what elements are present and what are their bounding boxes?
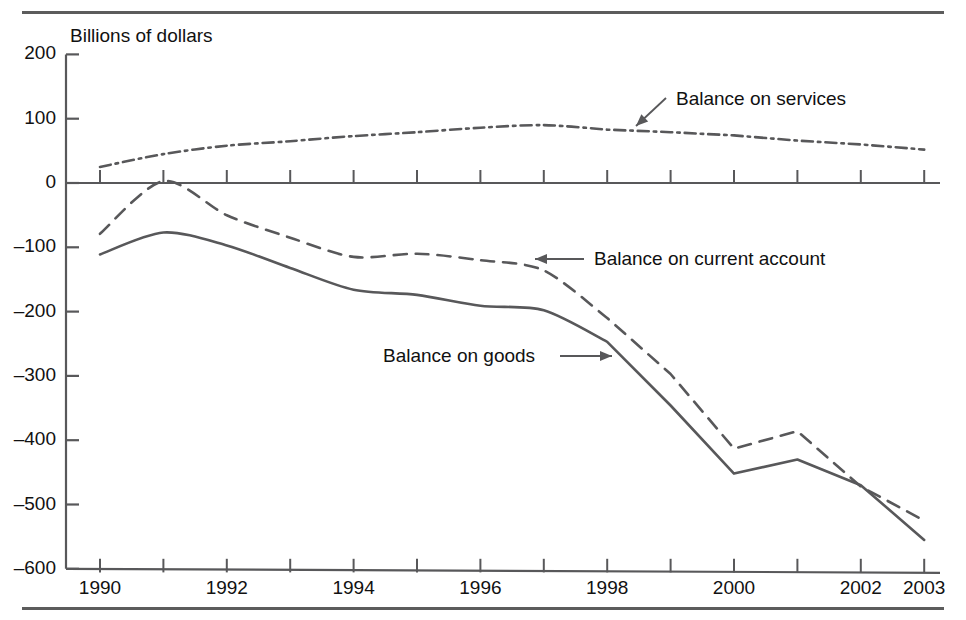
- y-tick-label: 0: [0, 171, 56, 193]
- y-tick-label: –300: [0, 364, 56, 386]
- y-tick-label: –400: [0, 428, 56, 450]
- series-line: [100, 232, 924, 540]
- y-tick-label: –100: [0, 235, 56, 257]
- x-tick-label: 2003: [884, 577, 964, 599]
- series-annotation-label: Balance on goods: [383, 345, 535, 367]
- series-annotation-label: Balance on services: [676, 88, 846, 110]
- y-tick-label: 100: [0, 107, 56, 129]
- x-tick-label: 1992: [187, 577, 267, 599]
- x-tick-label: 1990: [60, 577, 140, 599]
- chart-annotations: [535, 98, 666, 361]
- series-line: [100, 125, 924, 167]
- chart-series: [100, 125, 924, 540]
- chart-axes: [66, 54, 940, 572]
- x-tick-label: 2000: [694, 577, 774, 599]
- y-tick-label: –200: [0, 300, 56, 322]
- x-tick-label: 1994: [314, 577, 394, 599]
- y-tick-label: –500: [0, 493, 56, 515]
- x-tick-label: 1996: [440, 577, 520, 599]
- y-tick-label: 200: [0, 42, 56, 64]
- y-tick-label: –600: [0, 557, 56, 579]
- x-tick-label: 1998: [567, 577, 647, 599]
- series-annotation-label: Balance on current account: [594, 248, 825, 270]
